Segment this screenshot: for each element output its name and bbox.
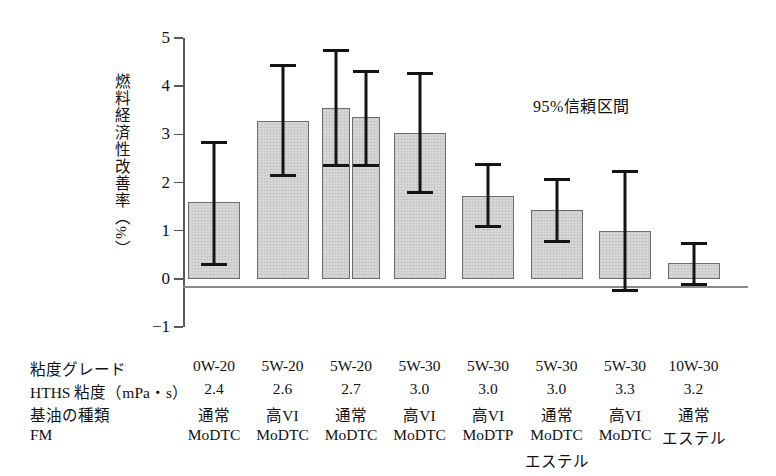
y-tick-label-1: 1 (162, 221, 171, 241)
error-bar-cap-top (612, 170, 638, 173)
table-cell-r2-c2: 通常 (335, 403, 367, 425)
y-tick-2 (174, 182, 183, 184)
table-cell-r0-c7: 10W-30 (669, 357, 719, 375)
table-cell-r2-c5: 通常 (541, 403, 573, 425)
error-bar-stem (335, 49, 338, 167)
table-row-label-1: HTHS 粘度（mPa・s） (30, 380, 188, 402)
error-bar (322, 49, 350, 167)
table-cell-r2-c0: 通常 (198, 403, 230, 425)
table-row-label-2: 基油の種類 (30, 403, 110, 425)
y-tick--1 (174, 326, 183, 328)
error-bar (188, 141, 240, 266)
table-cell-r2-c6: 高VI (609, 403, 641, 425)
table-cell-r1-c1: 2.6 (273, 380, 292, 398)
error-bar (394, 72, 446, 194)
y-tick-4 (174, 85, 183, 87)
table-cell-r1-c6: 3.3 (615, 380, 634, 398)
table-row-label-0: 粘度グレード (30, 357, 126, 379)
table-cell-r2-c1: 高VI (266, 403, 298, 425)
table-cell-r0-c5: 5W-30 (535, 357, 577, 375)
y-tick-label--1: −1 (152, 317, 170, 337)
error-bar-stem (281, 64, 284, 177)
table-cell-r1-c4: 3.0 (478, 380, 497, 398)
table-cell-r0-c4: 5W-30 (467, 357, 509, 375)
error-bar (668, 242, 720, 286)
table-cell-r0-c3: 5W-30 (398, 357, 440, 375)
error-bar-cap-bottom (270, 174, 296, 177)
error-bar-cap-bottom (475, 225, 501, 228)
chart-figure: 燃料経済性改善率（%） 95%信頼区間 −1012345 粘度グレードHTHS … (0, 0, 776, 476)
error-bar-stem (555, 178, 558, 243)
y-tick-5 (174, 37, 183, 39)
error-bar-stem (418, 72, 421, 194)
error-bar-cap-top (407, 72, 433, 75)
table-row-label-3: FM (30, 426, 52, 444)
error-bar-cap-top (353, 70, 379, 73)
table-cell-r2-c7: 通常 (678, 403, 710, 425)
zero-baseline (183, 286, 748, 288)
error-bar-stem (213, 141, 216, 266)
y-axis-title: 燃料経済性改善率（%） (106, 50, 136, 280)
y-tick-label-5: 5 (162, 28, 171, 48)
table-cell-r0-c6: 5W-30 (604, 357, 646, 375)
y-tick-label-3: 3 (162, 124, 171, 144)
error-bar-stem (487, 163, 490, 228)
error-bar-cap-top (323, 49, 349, 52)
y-tick-label-0: 0 (162, 269, 171, 289)
y-tick-label-2: 2 (162, 173, 171, 193)
y-tick-0 (174, 278, 183, 280)
table-cell-r1-c5: 3.0 (547, 380, 566, 398)
table-cell-r3-c7: エステル (662, 426, 726, 448)
table-cell-r0-c1: 5W-20 (261, 357, 303, 375)
parameter-table: 粘度グレードHTHS 粘度（mPa・s）基油の種類FM 0W-202.4通常Mo… (0, 357, 776, 476)
table-cell-r1-c7: 3.2 (684, 380, 703, 398)
table-cell-r3-c1: MoDTC (256, 426, 309, 444)
error-bar-stem (365, 70, 368, 166)
table-cell-r3-c3: MoDTC (393, 426, 446, 444)
error-bar-cap-bottom (353, 164, 379, 167)
y-axis-line (183, 38, 185, 327)
error-bar-cap-bottom (323, 164, 349, 167)
y-tick-label-4: 4 (162, 76, 171, 96)
error-bar-cap-top (681, 242, 707, 245)
table-cell-r0-c2: 5W-20 (330, 357, 372, 375)
plot-area: −1012345 (183, 38, 748, 327)
error-bar-stem (692, 242, 695, 286)
table-cell-r0-c0: 0W-20 (193, 357, 235, 375)
error-bar (462, 163, 514, 228)
error-bar-stem (624, 170, 627, 291)
error-bar (352, 70, 380, 166)
table-cell-r4-c5: エステル (525, 449, 589, 471)
error-bar-cap-top (475, 163, 501, 166)
table-cell-r1-c2: 2.7 (341, 380, 360, 398)
table-cell-r1-c0: 2.4 (204, 380, 223, 398)
error-bar-cap-top (201, 141, 227, 144)
error-bar-cap-bottom (201, 263, 227, 266)
table-cell-r1-c3: 3.0 (410, 380, 429, 398)
table-cell-r3-c0: MoDTC (188, 426, 241, 444)
error-bar-cap-bottom (544, 240, 570, 243)
y-tick-3 (174, 134, 183, 136)
table-cell-r2-c3: 高VI (403, 403, 435, 425)
table-cell-r3-c5: MoDTC (530, 426, 583, 444)
error-bar (599, 170, 651, 291)
error-bar-cap-bottom (681, 283, 707, 286)
error-bar (531, 178, 583, 243)
table-cell-r2-c4: 高VI (472, 403, 504, 425)
error-bar-cap-top (270, 64, 296, 67)
y-tick-1 (174, 230, 183, 232)
table-cell-r3-c6: MoDTC (599, 426, 652, 444)
error-bar-cap-bottom (612, 289, 638, 292)
error-bar-cap-top (544, 178, 570, 181)
error-bar-cap-bottom (407, 191, 433, 194)
error-bar (257, 64, 309, 177)
table-cell-r3-c2: MoDTC (325, 426, 378, 444)
table-cell-r3-c4: MoDTP (463, 426, 514, 444)
